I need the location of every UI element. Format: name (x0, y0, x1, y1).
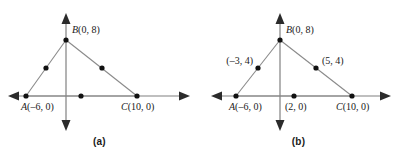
vertex-label-b-a-coords: (0, 8) (78, 24, 100, 36)
vertex-point-b-a (63, 37, 68, 42)
x-axis-right-arrow-icon-a (179, 92, 190, 101)
y-axis-up-arrow-icon-a (62, 13, 71, 24)
figure-root: A(–6, 0) B(0, 8) C(10, 0) (a) (0, 0, 398, 162)
vertex-label-c-b: C(10, 0) (336, 101, 369, 113)
vertex-label-b-b-coords: (0, 8) (292, 24, 314, 36)
vertex-label-c-b-coords: (10, 0) (343, 101, 370, 113)
panel-a: A(–6, 0) B(0, 8) C(10, 0) (a) (0, 0, 199, 162)
midpoint-label-left-b: (–3, 4) (226, 55, 253, 67)
vertex-label-a-b-coords: (–6, 0) (235, 101, 262, 113)
vertex-point-a-a (23, 93, 28, 98)
midpoint-point-left-a (43, 65, 48, 70)
vertex-label-a-b: A(–6, 0) (228, 101, 262, 113)
vertex-label-b-a: B(0, 8) (72, 24, 100, 36)
x-axis-left-arrow-icon-b (211, 92, 222, 101)
x-axis-right-arrow-icon-b (380, 92, 391, 101)
midpoint-label-right-b: (5, 4) (322, 55, 344, 67)
vertex-point-c-b (349, 93, 354, 98)
midpoint-point-right-b (313, 65, 318, 70)
panel-b: A(–6, 0) B(0, 8) C(10, 0) (–3, 4) (5, 4)… (199, 0, 398, 162)
vertex-point-c-a (134, 93, 139, 98)
vertex-label-a-a: A(–6, 0) (20, 101, 54, 113)
vertex-point-a-b (233, 93, 238, 98)
y-axis-down-arrow-icon-a (62, 120, 71, 131)
x-axis-left-arrow-icon-a (8, 92, 19, 101)
midpoint-point-base-b (291, 93, 296, 98)
y-axis-down-arrow-icon-b (276, 120, 285, 131)
vertex-label-c-a-coords: (10, 0) (128, 101, 155, 113)
y-axis-up-arrow-icon-b (276, 13, 285, 24)
midpoint-point-base-a (78, 93, 83, 98)
vertex-label-b-b: B(0, 8) (286, 24, 314, 36)
midpoint-label-base-b: (2, 0) (285, 101, 307, 113)
midpoint-point-right-a (99, 65, 104, 70)
vertex-point-b-b (277, 37, 282, 42)
vertex-label-c-a: C(10, 0) (121, 101, 154, 113)
panel-caption-a: (a) (0, 136, 199, 147)
vertex-label-a-a-coords: (–6, 0) (27, 101, 54, 113)
midpoint-point-left-b (255, 65, 260, 70)
panel-caption-b: (b) (199, 136, 398, 147)
